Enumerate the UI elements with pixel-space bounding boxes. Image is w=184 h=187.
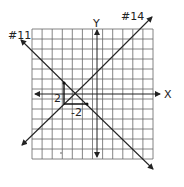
coordinate-plane-diagram: Y X #14 #11 2 -2 [0,0,184,187]
triangle-point [63,82,66,85]
line-14-label: #14 [121,10,144,23]
x-axis-label: X [164,88,172,101]
line-11-label: #11 [8,29,31,42]
rise-label: 2 [54,92,61,105]
run-label: -2 [71,106,82,119]
stray-dot [60,152,62,154]
triangle-point [86,103,89,106]
y-axis-label: Y [92,17,100,30]
